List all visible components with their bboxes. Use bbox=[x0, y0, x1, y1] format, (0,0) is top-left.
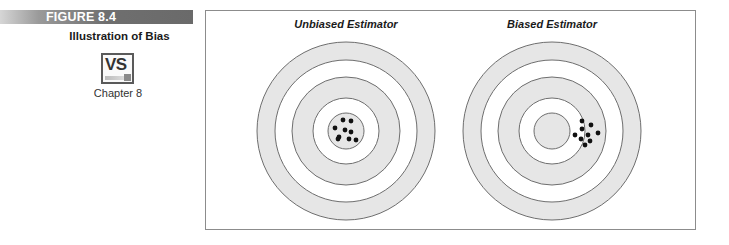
shot-dot bbox=[333, 126, 338, 131]
shot-dot bbox=[573, 133, 578, 138]
shot-dot bbox=[583, 143, 588, 148]
shot-dot bbox=[336, 137, 341, 142]
shot-dot bbox=[347, 137, 352, 142]
shot-dot bbox=[589, 123, 594, 128]
shot-dot bbox=[579, 137, 584, 142]
shot-dot bbox=[586, 133, 591, 138]
shot-dot bbox=[343, 128, 348, 133]
shot-dot bbox=[354, 138, 359, 143]
shot-dot bbox=[596, 131, 601, 136]
shot-dot bbox=[580, 119, 585, 124]
shot-dot bbox=[349, 130, 354, 135]
target-unbiased bbox=[257, 42, 435, 220]
shot-dot bbox=[588, 139, 593, 144]
target-biased bbox=[463, 42, 641, 220]
target-ring bbox=[534, 113, 570, 149]
shot-dot bbox=[580, 127, 585, 132]
shot-dot bbox=[341, 118, 346, 123]
targets-diagram bbox=[0, 0, 729, 245]
shot-dot bbox=[349, 119, 354, 124]
